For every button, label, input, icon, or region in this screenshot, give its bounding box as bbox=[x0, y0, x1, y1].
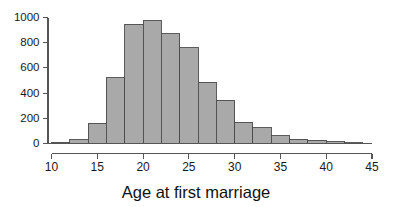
y-axis-tick-label: 600 bbox=[20, 61, 39, 73]
x-axis-tick-label: 15 bbox=[91, 160, 105, 174]
x-axis-tick-label: 30 bbox=[228, 160, 242, 174]
histogram-bar bbox=[70, 140, 88, 144]
x-axis-title: Age at first marriage bbox=[122, 183, 271, 201]
x-axis-tick-labels: 1015202530354045 bbox=[45, 160, 379, 174]
histogram-bar bbox=[253, 128, 271, 144]
histogram-bar bbox=[125, 24, 143, 143]
histogram-figure: 02004006008001000 1015202530354045 Age a… bbox=[0, 0, 393, 207]
x-axis-tick-label: 35 bbox=[274, 160, 288, 174]
histogram-bar bbox=[271, 136, 289, 144]
x-axis-tick-label: 25 bbox=[182, 160, 196, 174]
x-axis-tick-label: 10 bbox=[45, 160, 59, 174]
y-axis-tick-label: 1000 bbox=[14, 11, 40, 23]
histogram-bar bbox=[88, 123, 106, 143]
histogram-bar bbox=[161, 34, 179, 144]
x-axis-tick-label: 45 bbox=[365, 160, 379, 174]
histogram-bar bbox=[143, 21, 161, 144]
y-axis-tick-label: 200 bbox=[20, 112, 39, 124]
histogram-bar bbox=[235, 122, 253, 143]
histogram-bar bbox=[106, 78, 124, 144]
x-axis-tick-label: 20 bbox=[136, 160, 150, 174]
histogram-plot: 02004006008001000 1015202530354045 Age a… bbox=[0, 0, 393, 207]
histogram-bar bbox=[198, 82, 216, 143]
histogram-bar bbox=[290, 139, 308, 143]
y-axis-tick-label: 0 bbox=[33, 137, 39, 149]
histogram-bar bbox=[180, 48, 198, 144]
y-axis-tick-label: 800 bbox=[20, 36, 39, 48]
y-axis-tick-label: 400 bbox=[20, 87, 39, 99]
x-axis-tick-label: 40 bbox=[320, 160, 334, 174]
histogram-bar bbox=[216, 100, 234, 143]
y-axis-tick-labels: 02004006008001000 bbox=[14, 11, 40, 149]
bars-group bbox=[52, 21, 363, 144]
